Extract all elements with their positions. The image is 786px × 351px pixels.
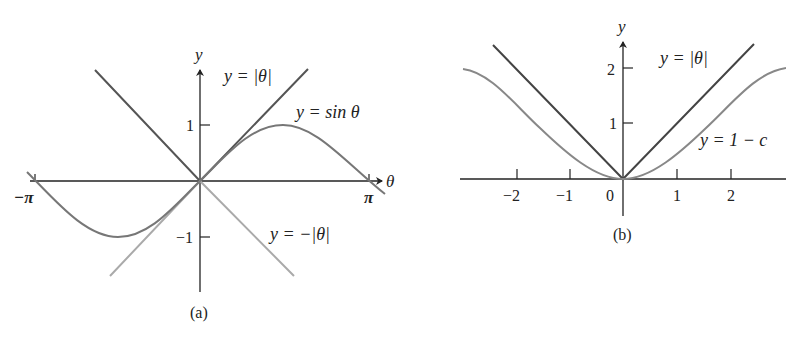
tick-label-x-1: 1 [673, 187, 681, 204]
tick-label-neg1: −1 [176, 229, 193, 246]
label-neg-abs-theta: y = −|θ| [268, 224, 330, 244]
figure: y θ −π π 1 −1 y = |θ| y = sin θ y = −|θ|… [0, 0, 786, 351]
tick-label-x-2: 2 [727, 187, 735, 204]
label-abs-theta: y = |θ| [658, 48, 708, 68]
chart-panel-b: y −2 −1 0 1 2 1 2 y = |θ| y = 1 − c (b) [460, 17, 786, 244]
tick-label-neg-pi: −π [14, 188, 34, 207]
tick-label-x-neg1: −1 [556, 187, 573, 204]
tick-label-1: 1 [186, 117, 194, 134]
tick-label-y-2: 2 [607, 61, 615, 78]
y-axis-label: y [616, 17, 626, 36]
chart-panel-a: y θ −π π 1 −1 y = |θ| y = sin θ y = −|θ|… [14, 45, 394, 322]
tick-label-y-1: 1 [609, 115, 617, 132]
caption-a: (a) [190, 304, 208, 322]
tick-label-pi: π [364, 188, 374, 207]
y-axis-label: y [193, 45, 203, 64]
label-abs-theta: y = |θ| [222, 66, 272, 86]
label-sin-theta: y = sin θ [294, 102, 360, 122]
caption-b: (b) [613, 226, 632, 244]
label-one-minus-cos: y = 1 − c [698, 130, 767, 150]
series-neg-abs-theta [110, 181, 294, 276]
x-axis-label: θ [386, 172, 394, 191]
tick-label-x-neg2: −2 [503, 187, 520, 204]
tick-label-x-0: 0 [606, 187, 614, 204]
